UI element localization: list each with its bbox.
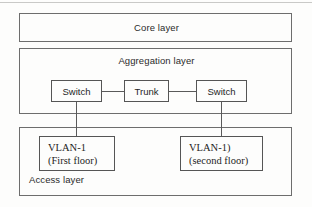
vlan-right-location: (second floor)	[189, 155, 262, 168]
page-top-rule	[0, 2, 312, 3]
aggregation-layer-label: Aggregation layer	[20, 55, 293, 66]
core-layer-container: Core layer	[19, 13, 292, 42]
vlan-left-location: (First floor)	[48, 155, 114, 168]
trunk-node: Trunk	[124, 80, 169, 102]
vlan-left-name: VLAN-1	[48, 142, 114, 155]
connector-trunk-to-switch-right	[169, 91, 196, 92]
switch-right-node: Switch	[196, 80, 247, 102]
core-layer-label: Core layer	[20, 22, 293, 33]
network-layer-diagram: Core layer Aggregation layer Access laye…	[0, 0, 312, 207]
access-layer-label: Access layer	[29, 174, 84, 185]
vlan-left-node: VLAN-1 (First floor)	[39, 136, 115, 171]
connector-switch-left-to-trunk	[102, 91, 124, 92]
vlan-right-node: VLAN-1) (second floor)	[180, 136, 263, 171]
connector-switch-right-to-vlan-right	[221, 102, 222, 136]
connector-switch-left-to-vlan-left	[76, 102, 77, 136]
switch-left-node: Switch	[51, 80, 102, 102]
vlan-right-name: VLAN-1)	[189, 142, 262, 155]
